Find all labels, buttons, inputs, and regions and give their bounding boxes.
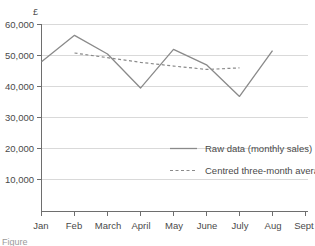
x-axis-tick-label: May — [165, 220, 183, 231]
y-axis-tick-label: 10,000 — [5, 174, 34, 185]
series-line-raw-data — [42, 35, 273, 96]
legend-label-centred-average: Centred three-month average — [205, 165, 315, 176]
x-axis-tick-label: April — [131, 220, 150, 231]
x-axis-tick-label: March — [95, 220, 121, 231]
y-axis-tick-label: 50,000 — [5, 50, 34, 61]
line-chart: £ 60,000 50,000 40,000 30,000 20,000 — [0, 0, 315, 246]
x-axis-tick-labels: Jan Feb March April May June July Aug Se… — [33, 220, 314, 231]
chart-container: £ 60,000 50,000 40,000 30,000 20,000 — [0, 0, 315, 246]
y-axis-tick-label: 20,000 — [5, 143, 34, 154]
y-axis — [37, 24, 42, 211]
gridlines — [41, 25, 308, 180]
y-axis-tick-label: 60,000 — [5, 19, 34, 30]
y-axis-tick-label: 40,000 — [5, 81, 34, 92]
legend: Raw data (monthly sales) Centred three-m… — [170, 143, 315, 176]
x-axis — [41, 212, 308, 217]
x-axis-tick-label: June — [197, 220, 218, 231]
x-axis-tick-label: Feb — [66, 220, 82, 231]
x-axis-tick-label: July — [232, 220, 249, 231]
y-axis-unit-label: £ — [33, 7, 38, 17]
y-axis-tick-label: 30,000 — [5, 112, 34, 123]
figure-caption: Figure — [2, 237, 28, 246]
x-axis-tick-label: Sept — [294, 220, 314, 231]
legend-label-raw-data: Raw data (monthly sales) — [205, 143, 312, 154]
y-axis-tick-labels: 60,000 50,000 40,000 30,000 20,000 10,00… — [5, 19, 34, 185]
x-axis-tick-label: Jan — [33, 220, 48, 231]
x-axis-tick-label: Aug — [265, 220, 282, 231]
